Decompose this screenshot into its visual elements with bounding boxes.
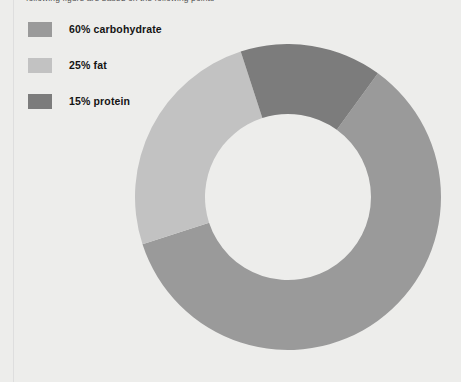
legend-item-carbohydrate: 60% carbohydrate <box>28 19 188 39</box>
legend-swatch-carbohydrate <box>28 22 52 37</box>
donut-chart-svg <box>135 44 441 350</box>
left-margin-rule <box>13 0 14 382</box>
legend-label-carbohydrate: 60% carbohydrate <box>69 23 162 35</box>
donut-slice-fat <box>135 51 262 244</box>
legend-label-fat: 25% fat <box>69 59 107 71</box>
donut-chart <box>135 44 441 350</box>
legend-label-protein: 15% protein <box>69 95 130 107</box>
donut-slice-group <box>135 44 441 350</box>
clipped-caption-text: following figure are based on the follow… <box>26 0 246 5</box>
legend-swatch-protein <box>28 94 52 109</box>
page-root: following figure are based on the follow… <box>0 0 461 382</box>
legend-swatch-fat <box>28 58 52 73</box>
